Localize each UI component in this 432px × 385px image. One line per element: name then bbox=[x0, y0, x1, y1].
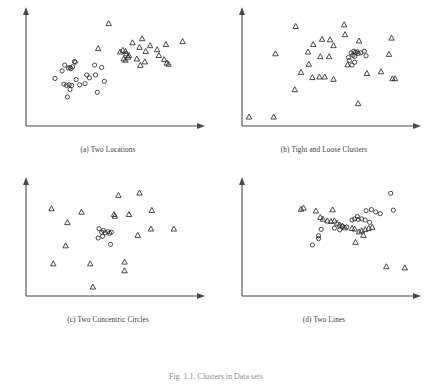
panel-c: (c) Two Concentric Circles bbox=[0, 170, 216, 340]
panel-b: (b) Tight and Loose Clusters bbox=[216, 0, 432, 170]
scatter-plot-c bbox=[0, 170, 216, 318]
scatter-plot-a bbox=[0, 0, 216, 148]
panel-d: (d) Two Lines bbox=[216, 170, 432, 340]
scatter-plot-d bbox=[216, 170, 432, 318]
figure-caption: Fig. 1.1. Clusters in Data sets bbox=[0, 372, 432, 381]
panel-a-caption: (a) Two Locations bbox=[0, 146, 216, 154]
panel-d-caption: (d) Two Lines bbox=[216, 316, 432, 324]
panel-b-caption: (b) Tight and Loose Clusters bbox=[216, 146, 432, 154]
figure-grid: (a) Two Locations (b) Tight and Loose Cl… bbox=[0, 0, 432, 385]
scatter-plot-b bbox=[216, 0, 432, 148]
panel-a: (a) Two Locations bbox=[0, 0, 216, 170]
panel-c-caption: (c) Two Concentric Circles bbox=[0, 316, 216, 324]
